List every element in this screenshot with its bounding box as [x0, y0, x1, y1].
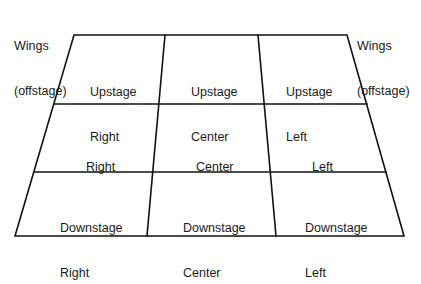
- cell-downstage-center: Downstage Center: [183, 191, 246, 284]
- wings-left-label: Wings (offstage): [14, 9, 67, 114]
- cell-line2: Center: [183, 266, 246, 281]
- cell-line2: Right: [60, 266, 123, 281]
- cell-line1: Right: [86, 160, 115, 175]
- cell-line1: Downstage: [305, 221, 368, 236]
- cell-line2: Left: [305, 266, 368, 281]
- center-left-divider: [258, 35, 276, 236]
- cell-downstage-left: Downstage Left: [305, 191, 368, 284]
- cell-line1: Downstage: [60, 221, 123, 236]
- cell-line1: Upstage: [90, 85, 137, 100]
- cell-center: Center: [196, 130, 234, 190]
- cell-downstage-right: Downstage Right: [60, 191, 123, 284]
- cell-line1: Upstage: [286, 85, 333, 100]
- cell-line1: Left: [312, 160, 333, 175]
- cell-right: Right: [86, 130, 115, 190]
- cell-line1: Downstage: [183, 221, 246, 236]
- wings-right-line2: (offstage): [357, 84, 410, 99]
- wings-right-line1: Wings: [357, 39, 410, 54]
- wings-left-line1: Wings: [14, 39, 67, 54]
- cell-line1: Upstage: [191, 85, 238, 100]
- cell-line1: Center: [196, 160, 234, 175]
- wings-left-line2: (offstage): [14, 84, 67, 99]
- wings-right-label: Wings (offstage): [357, 9, 410, 114]
- cell-left: Left: [312, 130, 333, 190]
- right-center-divider: [147, 35, 165, 236]
